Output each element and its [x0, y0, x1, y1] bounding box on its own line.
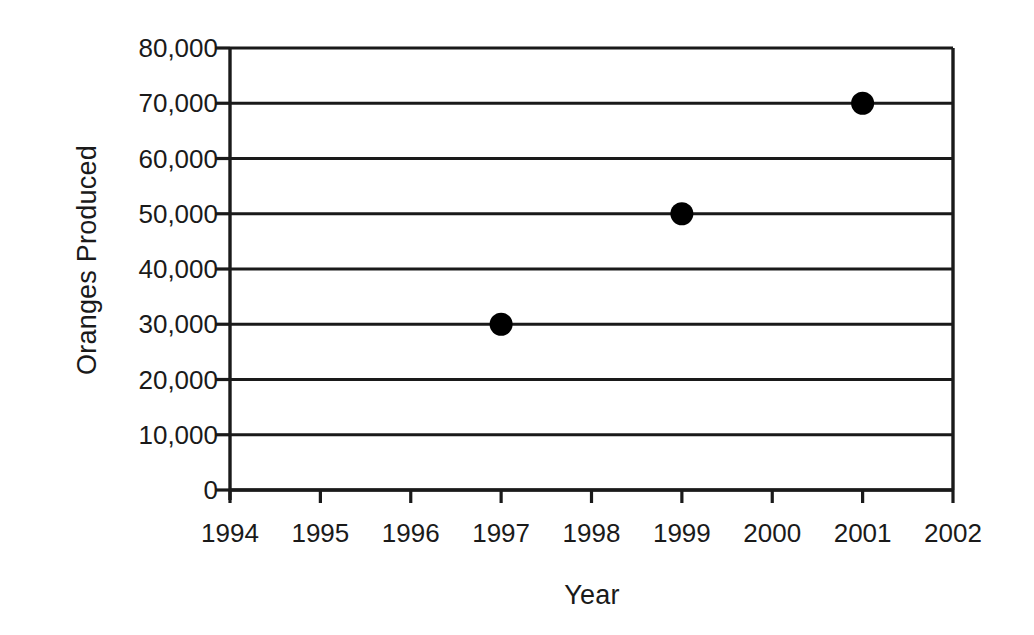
gridlines: [230, 48, 953, 490]
data-point-marker: [490, 313, 513, 336]
data-point-marker: [851, 92, 874, 115]
scatter-chart: Oranges Produced Year 010,00020,00030,00…: [0, 0, 1034, 635]
data-point-marker: [670, 202, 693, 225]
plot-area: [0, 0, 1034, 635]
axis-lines: [230, 48, 953, 500]
